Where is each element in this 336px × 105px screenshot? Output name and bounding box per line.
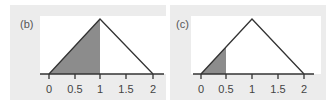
panel-c-tick-label: 1.5 <box>270 83 285 95</box>
panel-b-tick-label: 1.5 <box>118 83 133 95</box>
panel-b-tick-label: 0.5 <box>67 83 82 95</box>
panel-b-tick-label: 2 <box>150 83 156 95</box>
panel-b: (b) 0 0.5 1 1.5 2 <box>20 16 166 95</box>
panel-b-tick-label: 0 <box>46 83 52 95</box>
panel-c-tick-label: 1 <box>249 83 255 95</box>
panel-c-label: (c) <box>176 18 189 30</box>
panel-c-ticks <box>201 74 304 79</box>
panel-b-label: (b) <box>20 18 33 30</box>
panel-c-tick-label: 0.5 <box>218 83 233 95</box>
panel-b-tick-label: 1 <box>97 83 103 95</box>
panel-c-tick-label: 2 <box>301 83 307 95</box>
panel-c: (c) 0 0.5 1 1.5 2 <box>176 16 321 95</box>
figure-svg: (b) 0 0.5 1 1.5 2 (c) 0 0.5 1 <box>0 0 336 105</box>
panel-b-ticks <box>49 74 153 79</box>
panel-c-tick-label: 0 <box>198 83 204 95</box>
